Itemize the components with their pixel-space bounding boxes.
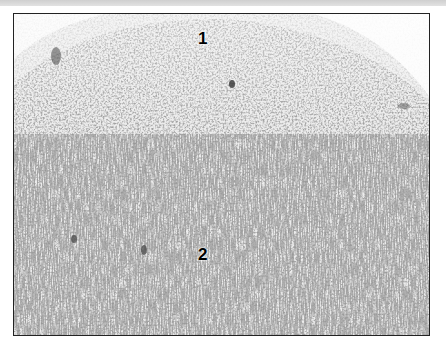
micrograph-frame	[13, 13, 430, 336]
region-label-2: 2	[198, 246, 207, 263]
tissue-section-image	[14, 14, 430, 336]
region-label-1: 1	[198, 30, 207, 47]
top-bar	[0, 0, 446, 6]
